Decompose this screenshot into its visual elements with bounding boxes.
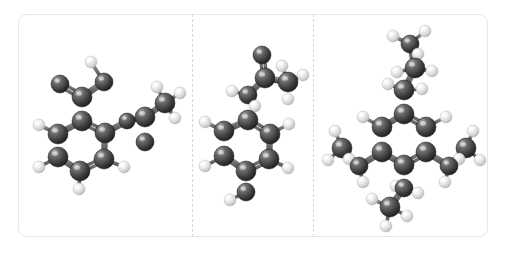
atom-highlight [399, 183, 404, 187]
atom-c-c8 [95, 73, 113, 91]
atom-highlight [469, 128, 473, 131]
atom-h-h8 [169, 112, 181, 124]
atom-highlight [171, 115, 175, 118]
atom-highlight [35, 122, 39, 125]
atom-c-c5 [259, 149, 279, 169]
atom-highlight [442, 114, 446, 117]
atom-highlight [324, 157, 328, 160]
atom-h-h13 [329, 125, 341, 137]
atom-highlight [218, 125, 224, 129]
atom-highlight [336, 142, 342, 146]
atom-c-c15 [380, 197, 400, 217]
atom-highlight [420, 121, 426, 125]
atom-c-c12 [440, 157, 458, 175]
atom-c-c10 [350, 157, 368, 175]
atom-highlight [153, 84, 157, 87]
atom-highlight [398, 84, 404, 88]
atom-h-h3 [282, 162, 294, 174]
atom-highlight [251, 103, 255, 106]
atom-highlight [35, 164, 39, 167]
atom-highlight [278, 63, 282, 66]
atom-highlight [398, 159, 404, 163]
atom-highlight [285, 121, 289, 124]
atom-h-h2 [199, 160, 211, 172]
atom-highlight [264, 128, 270, 132]
atom-highlight [52, 151, 58, 155]
atom-highlight [284, 165, 288, 168]
atom-highlight [201, 163, 205, 166]
atom-highlight [55, 79, 60, 83]
atom-highlight [299, 72, 303, 75]
molecule-2-atoms [199, 46, 309, 206]
atom-h-h1 [199, 116, 211, 128]
atom-c-o1 [51, 75, 69, 93]
molecule-structures-svg [0, 0, 506, 254]
atom-highlight [384, 81, 388, 84]
atom-highlight [460, 142, 466, 146]
atom-c-c2 [48, 124, 68, 144]
atom-c-c3 [214, 146, 234, 166]
atom-h-h20 [366, 193, 378, 205]
atom-highlight [414, 190, 418, 193]
atom-h-h1 [357, 111, 369, 123]
atom-highlight [420, 146, 426, 150]
atom-c-c10 [237, 183, 255, 201]
molecule-3-atoms [322, 25, 486, 232]
atom-h-h2 [440, 111, 452, 123]
atom-highlight [476, 157, 480, 160]
atom-highlight [359, 114, 363, 117]
atom-highlight [393, 69, 397, 72]
atom-c-c5 [416, 142, 436, 162]
atom-h-h16 [474, 154, 486, 166]
atom-highlight [242, 114, 248, 118]
atom-h-h10 [357, 176, 369, 188]
atom-highlight [455, 156, 459, 159]
atom-highlight [359, 179, 363, 182]
atom-c-c1 [72, 111, 92, 131]
atom-h-h22 [401, 210, 413, 222]
atom-c-c7 [394, 80, 414, 100]
atom-c-c3 [372, 142, 392, 162]
atom-highlight [376, 146, 382, 150]
atom-h-h6 [426, 65, 438, 77]
atom-c-c5 [94, 149, 114, 169]
atom-highlight [218, 150, 224, 154]
atom-highlight [228, 88, 232, 91]
atom-highlight [226, 197, 230, 200]
atom-highlight [418, 86, 422, 89]
molecule-viewer [0, 0, 506, 254]
atom-highlight [76, 115, 82, 119]
atom-highlight [263, 153, 269, 157]
atom-h-h4 [283, 118, 295, 130]
atom-c-c14 [395, 179, 413, 197]
atom-h-h3 [73, 183, 85, 195]
molecule-canvas-layer [0, 0, 506, 254]
atom-c-c10 [135, 107, 155, 127]
atom-c-c9 [278, 72, 298, 92]
atom-highlight [201, 119, 205, 122]
atom-h-h2 [33, 161, 45, 173]
atom-highlight [159, 97, 165, 101]
atom-highlight [398, 108, 404, 112]
atom-h-h4 [416, 83, 428, 95]
atom-c-c2 [214, 121, 234, 141]
atom-c-c4 [394, 155, 414, 175]
atom-highlight [259, 72, 265, 76]
atom-highlight [120, 164, 124, 167]
atom-highlight [243, 90, 248, 94]
atom-highlight [354, 161, 359, 165]
atom-h-h7 [276, 60, 288, 72]
atom-highlight [257, 50, 262, 54]
atom-h-h8 [419, 25, 431, 37]
atom-c-c1 [238, 110, 258, 130]
atom-highlight [75, 186, 79, 189]
atom-highlight [389, 33, 393, 36]
atom-h-h5 [391, 66, 403, 78]
atom-highlight [74, 165, 80, 169]
atom-c-o1 [253, 46, 271, 64]
atom-h-h3 [382, 78, 394, 90]
atom-highlight [240, 165, 246, 169]
atom-highlight [176, 90, 180, 93]
atom-c-c8 [405, 58, 425, 78]
atom-highlight [122, 116, 127, 120]
